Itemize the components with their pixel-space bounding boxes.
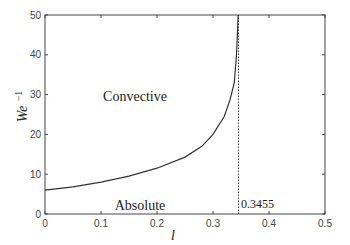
y-tick-label: 30 bbox=[30, 89, 42, 100]
y-axis-label-superscript: −1 bbox=[13, 91, 24, 102]
x-tick-label: 0.1 bbox=[94, 218, 108, 229]
y-tick-label: 0 bbox=[35, 209, 41, 220]
x-axis-ticks: 00.10.20.30.40.5 bbox=[42, 15, 332, 229]
y-tick-label: 50 bbox=[30, 10, 42, 21]
y-axis-ticks: 01020304050 bbox=[30, 10, 325, 220]
x-tick-label: 0.2 bbox=[150, 218, 164, 229]
region-label-convective: Convective bbox=[103, 89, 167, 104]
y-axis-label: We −1 bbox=[13, 91, 30, 123]
critical-value-annotation: 0.3455 bbox=[241, 197, 274, 211]
x-axis-label: l bbox=[171, 228, 175, 243]
x-tick-label: 0.4 bbox=[262, 218, 276, 229]
x-tick-label: 0 bbox=[42, 218, 48, 229]
chart: 00.10.20.30.40.5 01020304050 Convective … bbox=[0, 0, 350, 245]
x-tick-label: 0.3 bbox=[206, 218, 220, 229]
data-series bbox=[45, 15, 239, 214]
y-tick-label: 40 bbox=[30, 49, 42, 60]
x-tick-label: 0.5 bbox=[318, 218, 332, 229]
y-tick-label: 20 bbox=[30, 129, 42, 140]
y-axis-label-base: We bbox=[15, 106, 30, 123]
region-label-absolute: Absolute bbox=[115, 198, 166, 213]
y-tick-label: 10 bbox=[30, 169, 42, 180]
